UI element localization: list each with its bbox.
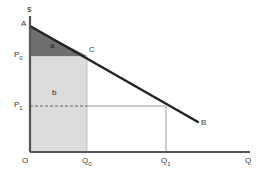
region-a-label: a: [50, 42, 54, 50]
region-b-label: b: [52, 89, 56, 97]
price-tick-p0: P0: [14, 51, 23, 61]
region-b-shape: [30, 56, 87, 152]
x-axis-label: Q: [245, 157, 251, 165]
price-tick-p1: P1: [14, 101, 23, 111]
quantity-tick-q1: Q1: [161, 157, 171, 167]
price-tick-p0-sub: 0: [19, 55, 22, 61]
figure-canvas: [0, 0, 263, 178]
price-tick-p1-sub: 1: [19, 105, 22, 111]
demand-curve-figure: $ A C B P0 P1 O Q0 Q1 Q a b: [0, 0, 263, 178]
point-a-label: A: [21, 20, 26, 28]
origin-label: O: [22, 157, 28, 165]
quantity-tick-q1-sub: 1: [167, 161, 170, 167]
y-axis-label: $: [27, 6, 31, 14]
point-b-label: B: [201, 119, 206, 127]
quantity-tick-q0: Q0: [82, 157, 92, 167]
point-c-label: C: [89, 46, 95, 54]
quantity-tick-q0-sub: 0: [88, 161, 91, 167]
